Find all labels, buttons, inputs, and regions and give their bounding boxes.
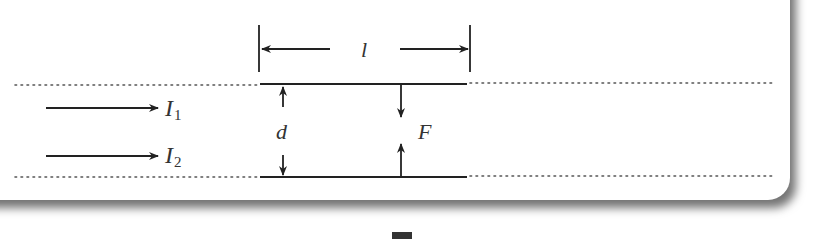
current1-label: I1 — [164, 95, 182, 123]
separation-label: d — [276, 119, 288, 144]
current-arrows — [46, 108, 158, 156]
length-label: l — [361, 37, 367, 62]
figure-caption-fragment — [392, 232, 412, 239]
diagram-canvas: l d F I1 I2 — [0, 0, 813, 239]
dotted-extension-lines — [15, 83, 772, 177]
current2-label: I2 — [164, 142, 182, 170]
force-label: F — [417, 119, 432, 144]
